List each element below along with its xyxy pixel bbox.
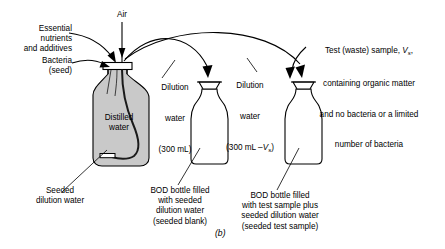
figure-caption: (b) — [215, 228, 226, 238]
label-dilution-water-1: Dilution water (300 mL) — [144, 63, 206, 175]
label-air: Air — [97, 10, 147, 20]
label-essential-nutrients: Essentialnutrientsand additives — [4, 24, 72, 55]
label-bod-bottle-2-caption: BOD bottle filledwith test sample plusse… — [214, 191, 346, 232]
ts-post: , — [411, 46, 413, 55]
label-test-sample-line2: containing organic matter — [296, 79, 442, 89]
label-dilution-water-2-line3: (300 mL –Vs) — [213, 143, 287, 155]
dw2-post: ) — [271, 143, 274, 152]
arc-to-bottle-1 — [124, 39, 207, 66]
bod-test-figure: Essentialnutrientsand additives Air Bact… — [0, 0, 445, 249]
leader-bacteria — [72, 60, 104, 64]
arc-to-bottle-2 — [125, 33, 300, 64]
label-dilution-water-2: Dilution water (300 mL –Vs) — [213, 61, 287, 175]
label-dilution-water-2-line2: water — [213, 112, 287, 122]
air-inlet — [119, 22, 126, 63]
label-bacteria-seed: Bacteria(seed) — [8, 56, 72, 76]
label-dilution-water-1-line3: (300 mL) — [144, 145, 206, 155]
label-dilution-water-2-line1: Dilution — [213, 81, 287, 91]
label-test-sample-line1: Test (waste) sample, Vs, — [296, 46, 442, 58]
label-distilled-water: Distilledwater — [94, 113, 144, 133]
label-test-sample: Test (waste) sample, Vs, containing orga… — [296, 26, 442, 171]
label-test-sample-line4: number of bacteria — [296, 140, 442, 150]
label-test-sample-line3: and no bacteria or a limited — [296, 110, 442, 120]
leader-essential-nutrients — [69, 33, 112, 57]
label-seeded-dilution-water: Seededdilution water — [12, 186, 108, 206]
ts-pre: Test (waste) sample, — [325, 46, 402, 55]
label-dilution-water-1-line1: Dilution — [144, 83, 206, 93]
dw2-pre: (300 mL – — [226, 143, 263, 152]
label-dilution-water-1-line2: water — [144, 114, 206, 124]
